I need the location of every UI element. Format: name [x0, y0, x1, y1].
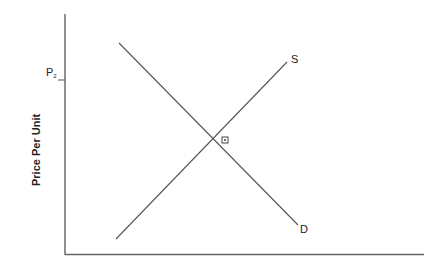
- demand-curve: [119, 43, 298, 225]
- supply-curve: [116, 62, 287, 239]
- demand-label: D: [300, 223, 308, 235]
- p2-tick-label: P2: [46, 66, 57, 79]
- y-axis-label: Price Per Unit: [30, 106, 46, 186]
- supply-label: S: [291, 53, 298, 65]
- supply-demand-diagram: [0, 0, 444, 277]
